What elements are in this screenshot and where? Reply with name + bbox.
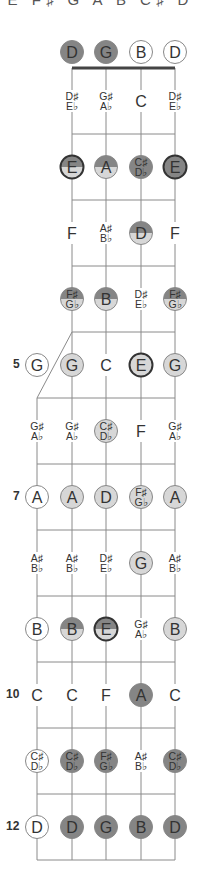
note-label: C (135, 93, 147, 110)
fret-number-label: 7 (13, 489, 20, 503)
note-label-flat: E♭ (169, 100, 181, 112)
note-label: G (31, 357, 43, 374)
note-marker: A (95, 156, 118, 179)
note-label: F (170, 225, 180, 242)
note-label-flat: D♭ (135, 166, 148, 178)
note-label-flat: A♭ (100, 100, 112, 112)
note-marker: B (61, 618, 84, 641)
note-marker: A♯B♭ (133, 750, 149, 772)
note-label-flat: B♭ (135, 760, 147, 772)
note-marker: G (130, 552, 153, 575)
note-marker: D (95, 486, 118, 509)
note-label: G (66, 357, 78, 374)
note-label: F (136, 423, 146, 440)
note-marker: D♯E♭ (133, 288, 149, 310)
note-marker: D (26, 816, 49, 839)
note-marker: E (95, 618, 118, 641)
note-label: B (101, 291, 112, 308)
note-marker: C♯D♭ (130, 156, 153, 179)
note-label: F (67, 225, 77, 242)
note-label-flat: E♭ (66, 100, 78, 112)
note-marker: E (61, 156, 84, 179)
note-marker: B (26, 618, 49, 641)
note-marker: F♯G♭ (61, 288, 84, 311)
note-label-flat: A♭ (135, 628, 147, 640)
note-marker: C♯D♭ (26, 750, 49, 773)
note-label-flat: B♭ (100, 232, 112, 244)
note-label: D (66, 44, 78, 61)
fretboard-diagram: DGBDD♯E♭G♯A♭CD♯E♭EAC♯D♭EFA♯B♭DFF♯G♭BD♯E♭… (0, 0, 201, 877)
note-label-flat: D♭ (169, 760, 182, 772)
note-label: A (101, 159, 112, 176)
note-label-flat: G♭ (65, 298, 78, 310)
note-marker: A (26, 486, 49, 509)
note-label-flat: E♭ (135, 298, 147, 310)
note-marker: B (130, 41, 153, 64)
note-label-flat: B♭ (169, 562, 181, 574)
note-marker: A (130, 684, 153, 707)
note-label: E (136, 357, 147, 374)
note-label: D (31, 819, 43, 836)
note-marker: B (164, 618, 187, 641)
fretboard-lines (37, 68, 175, 860)
note-label-flat: E♭ (100, 562, 112, 574)
note-marker: C♯D♭ (95, 420, 118, 443)
note-label: A (170, 489, 181, 506)
note-label-flat: D♭ (100, 430, 113, 442)
note-marker: C (98, 354, 114, 376)
note-marker: D (164, 41, 187, 64)
note-marker: G♯A♭ (64, 420, 80, 442)
note-label-flat: D♭ (66, 760, 79, 772)
note-label-flat: A♭ (66, 430, 78, 442)
note-marker: C♯D♭ (164, 750, 187, 773)
note-marker: C (133, 90, 149, 112)
note-label-flat: G♭ (168, 298, 181, 310)
note-marker: B (95, 288, 118, 311)
note-label: A (136, 687, 147, 704)
note-marker: F♯G♭ (164, 288, 187, 311)
note-label: G (169, 357, 181, 374)
note-marker: A♯B♭ (98, 222, 114, 244)
note-marker: G (95, 816, 118, 839)
note-label: B (136, 44, 147, 61)
note-label-flat: G♭ (134, 496, 147, 508)
note-marker: F (64, 222, 80, 244)
note-marker: G (95, 41, 118, 64)
note-label-flat: B♭ (31, 562, 43, 574)
note-label-flat: A♭ (169, 430, 181, 442)
note-marker: D♯E♭ (167, 90, 183, 112)
note-marker: D (130, 222, 153, 245)
note-marker: F (167, 222, 183, 244)
note-marker: C (64, 684, 80, 706)
note-marker: F♯G♭ (130, 486, 153, 509)
note-label: A (67, 489, 78, 506)
note-marker: B (130, 816, 153, 839)
note-label-flat: D♭ (31, 760, 44, 772)
note-marker: A♯B♭ (167, 552, 183, 574)
note-marker: D♯E♭ (98, 552, 114, 574)
fret-number-label: 10 (6, 687, 19, 701)
note-marker: A (61, 486, 84, 509)
note-marker: G♯A♭ (167, 420, 183, 442)
note-label: D (135, 225, 147, 242)
note-label: D (169, 44, 181, 61)
note-marker: A♯B♭ (29, 552, 45, 574)
note-marker: G♯A♭ (133, 618, 149, 640)
note-label: C (169, 687, 181, 704)
note-marker: C (29, 684, 45, 706)
note-label: C (31, 687, 43, 704)
note-marker: F (98, 684, 114, 706)
note-label: B (170, 621, 181, 638)
note-marker: A♯B♭ (64, 552, 80, 574)
note-label: F (101, 687, 111, 704)
note-marker: D (164, 816, 187, 839)
note-marker: C♯D♭ (61, 750, 84, 773)
fret-number-label: 12 (6, 819, 19, 833)
note-label: D (66, 819, 78, 836)
note-label: A (32, 489, 43, 506)
note-label-flat: A♭ (31, 430, 43, 442)
note-label: E (67, 159, 78, 176)
note-label: B (136, 819, 147, 836)
note-marker: E (130, 354, 153, 377)
note-marker: A (164, 486, 187, 509)
